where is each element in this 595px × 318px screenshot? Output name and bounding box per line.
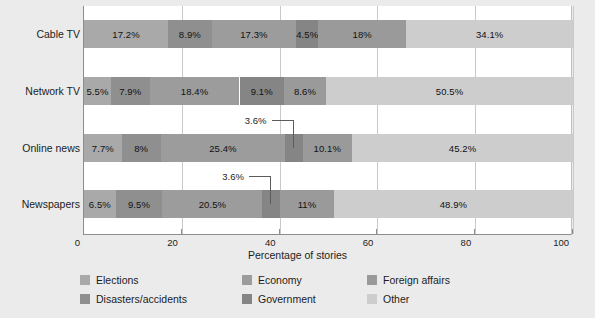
- bar-segment-value: 10.1%: [314, 143, 341, 154]
- legend-item-elections[interactable]: Elections: [80, 274, 242, 286]
- x-axis-tick-0: 0: [75, 237, 83, 248]
- bar-segment[interactable]: 9.1%: [240, 77, 284, 105]
- x-axis-tick-40: 40: [265, 237, 279, 248]
- callout-leader-line-horizontal: [249, 176, 271, 177]
- callout-leader-line-horizontal: [272, 120, 294, 121]
- legend-swatch-government: [242, 294, 252, 304]
- callout-label: 3.6%: [222, 171, 244, 182]
- y-axis-label-network-tv: Network TV: [0, 85, 80, 97]
- callout-leader-line-vertical: [293, 120, 294, 148]
- legend-swatch-other: [367, 294, 377, 304]
- bar-segment-value: 34.1%: [476, 29, 503, 40]
- legend-label-elections: Elections: [96, 274, 139, 286]
- grid-line: [573, 6, 574, 234]
- bar-segment[interactable]: 34.1%: [406, 20, 573, 48]
- bar-segment[interactable]: 8%: [122, 134, 161, 162]
- y-axis-label-cable-tv: Cable TV: [0, 28, 80, 40]
- x-axis-title: Percentage of stories: [0, 249, 595, 261]
- bar-segment[interactable]: 48.9%: [334, 190, 573, 218]
- bar-segment-value: 8.6%: [294, 86, 316, 97]
- bar-segment[interactable]: 8.6%: [284, 77, 326, 105]
- x-axis-tick-60: 60: [363, 237, 377, 248]
- callout-leader-line-vertical: [270, 176, 271, 204]
- bar-segment-value: 5.5%: [86, 86, 108, 97]
- legend-item-government[interactable]: Government: [242, 293, 367, 305]
- bar-segment[interactable]: 17.2%: [84, 20, 168, 48]
- legend-label-other: Other: [383, 293, 409, 305]
- legend-item-economy[interactable]: Economy: [242, 274, 367, 286]
- bar-segment-value: 50.5%: [436, 86, 463, 97]
- x-axis-tick-mark: [181, 229, 182, 234]
- bar-segment[interactable]: 25.4%: [161, 134, 285, 162]
- legend-label-disasters-accidents: Disasters/accidents: [96, 293, 187, 305]
- legend-item-other[interactable]: Other: [367, 293, 507, 305]
- bar-segment[interactable]: 50.5%: [326, 77, 573, 105]
- bar-segment-value: 8.9%: [179, 29, 201, 40]
- bar-segment-value: 20.5%: [199, 199, 226, 210]
- legend-label-government: Government: [258, 293, 316, 305]
- plot-area: 17.2%8.9%17.3%4.5%18%34.1%5.5%7.9%18.4%9…: [83, 6, 572, 235]
- chart-legend: Elections Economy Foreign affairs Disast…: [80, 270, 510, 308]
- bar-segment-value: 4.5%: [296, 29, 318, 40]
- bar-segment-value: 9.1%: [251, 86, 273, 97]
- bar-row: 5.5%7.9%18.4%9.1%8.6%50.5%: [84, 77, 573, 105]
- bar-segment-value: 17.2%: [112, 29, 139, 40]
- bar-segment-value: 17.3%: [240, 29, 267, 40]
- legend-swatch-elections: [80, 275, 90, 285]
- y-axis-label-newspapers: Newspapers: [0, 198, 80, 210]
- bar-segment-value: 9.5%: [128, 199, 150, 210]
- bar-segment[interactable]: [262, 190, 280, 218]
- bar-row: 17.2%8.9%17.3%4.5%18%34.1%: [84, 20, 573, 48]
- x-axis-tick-mark: [376, 229, 377, 234]
- legend-swatch-foreign-affairs: [367, 275, 377, 285]
- bar-segment-value: 18.4%: [181, 86, 208, 97]
- bar-segment[interactable]: 45.2%: [352, 134, 573, 162]
- legend-item-disasters-accidents[interactable]: Disasters/accidents: [80, 293, 242, 305]
- y-axis-label-online-news: Online news: [0, 142, 80, 154]
- bar-segment[interactable]: [285, 134, 303, 162]
- bar-segment[interactable]: 6.5%: [84, 190, 116, 218]
- bar-segment-value: 7.7%: [92, 143, 114, 154]
- x-axis-tick-100: 100: [553, 237, 572, 248]
- callout-label: 3.6%: [245, 115, 267, 126]
- x-axis-tick-mark: [474, 229, 475, 234]
- bar-segment[interactable]: 7.9%: [111, 77, 150, 105]
- bar-segment[interactable]: 9.5%: [116, 190, 162, 218]
- bar-segment[interactable]: 10.1%: [303, 134, 352, 162]
- bar-segment-value: 18%: [353, 29, 372, 40]
- bar-row: 7.7%8%25.4%10.1%45.2%: [84, 134, 573, 162]
- bar-segment[interactable]: 17.3%: [212, 20, 297, 48]
- bar-segment[interactable]: 8.9%: [168, 20, 212, 48]
- bar-segment-value: 8%: [134, 143, 148, 154]
- legend-item-foreign-affairs[interactable]: Foreign affairs: [367, 274, 507, 286]
- legend-label-economy: Economy: [258, 274, 302, 286]
- bar-segment-value: 11%: [298, 199, 317, 210]
- x-axis-tick-80: 80: [461, 237, 475, 248]
- bar-row: 6.5%9.5%20.5%11%48.9%: [84, 190, 573, 218]
- x-axis-tick-mark: [572, 229, 573, 234]
- bar-segment[interactable]: 5.5%: [84, 77, 111, 105]
- bar-segment[interactable]: 11%: [280, 190, 334, 218]
- x-axis-tick-mark: [279, 229, 280, 234]
- bar-segment[interactable]: 4.5%: [296, 20, 318, 48]
- bar-segment[interactable]: 18%: [318, 20, 406, 48]
- bar-segment[interactable]: 20.5%: [162, 190, 262, 218]
- bar-segment-value: 6.5%: [89, 199, 111, 210]
- legend-swatch-disasters-accidents: [80, 294, 90, 304]
- bar-segment-value: 25.4%: [209, 143, 236, 154]
- bar-segment[interactable]: 7.7%: [84, 134, 122, 162]
- x-axis-tick-20: 20: [167, 237, 181, 248]
- legend-swatch-economy: [242, 275, 252, 285]
- x-axis-tick-mark: [83, 229, 84, 234]
- chart-figure: 17.2%8.9%17.3%4.5%18%34.1%5.5%7.9%18.4%9…: [0, 0, 595, 318]
- bar-segment-value: 7.9%: [119, 86, 141, 97]
- bar-segment[interactable]: 18.4%: [150, 77, 240, 105]
- bar-segment-value: 48.9%: [440, 199, 467, 210]
- legend-label-foreign-affairs: Foreign affairs: [383, 274, 450, 286]
- bar-segment-value: 45.2%: [449, 143, 476, 154]
